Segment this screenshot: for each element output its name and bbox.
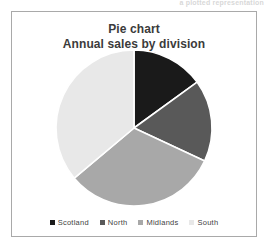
legend-item-south[interactable]: South xyxy=(189,218,218,227)
legend-swatch-icon-north xyxy=(100,220,105,225)
legend-swatch-icon-south xyxy=(189,220,194,225)
legend-label-north: North xyxy=(108,218,128,227)
legend-label-scotland: Scotland xyxy=(58,218,89,227)
screenshot-root: a plotted representation Pie chart Annua… xyxy=(0,0,269,249)
pie-slice-group xyxy=(56,50,212,206)
pie-plot-area xyxy=(12,48,256,210)
page-header-text-fragment: a plotted representation xyxy=(152,0,264,8)
pie-chart-svg xyxy=(12,48,256,210)
legend-label-south: South xyxy=(197,218,218,227)
legend-swatch-icon-midlands xyxy=(138,220,143,225)
chart-frame[interactable]: Pie chart Annual sales by division Scotl… xyxy=(11,11,257,237)
legend-swatch-icon-scotland xyxy=(50,220,55,225)
legend-item-north[interactable]: North xyxy=(100,218,128,227)
legend-item-midlands[interactable]: Midlands xyxy=(138,218,178,227)
chart-title-line-1: Pie chart xyxy=(12,22,256,37)
legend-label-midlands: Midlands xyxy=(146,218,178,227)
legend-item-scotland[interactable]: Scotland xyxy=(50,218,89,227)
chart-legend: ScotlandNorthMidlandsSouth xyxy=(12,218,256,227)
